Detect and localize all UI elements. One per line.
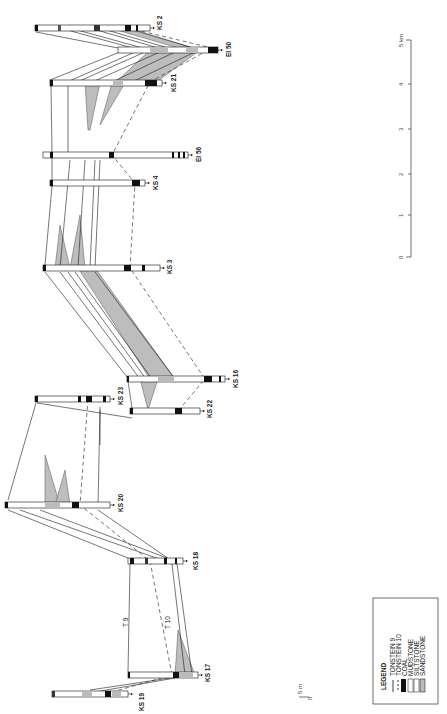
borehole-ks20 bbox=[5, 502, 114, 508]
borehole-label-ei50: EI 50 bbox=[225, 41, 232, 57]
t10-label: T 10 bbox=[164, 616, 171, 629]
correlation-lines bbox=[8, 28, 200, 692]
borehole-ks21 bbox=[50, 80, 166, 86]
borehole-label-ks21: KS 21 bbox=[170, 74, 177, 92]
borehole-label-ks22: KS 22 bbox=[206, 400, 213, 418]
borehole-label-ks2: KS 2 bbox=[156, 15, 163, 30]
borehole-ks16 bbox=[127, 376, 229, 382]
borehole-ei50 bbox=[118, 47, 222, 53]
t9-label: T 9 bbox=[122, 617, 129, 627]
borehole-ks18 bbox=[128, 558, 187, 564]
borehole-label-ks17: KS 17 bbox=[204, 664, 211, 682]
borehole-ks17 bbox=[128, 672, 202, 678]
legend-mudstone-symbol bbox=[408, 679, 413, 692]
metre-scale-bottom: 0 bbox=[307, 696, 313, 700]
borehole-ks23 bbox=[35, 396, 114, 402]
metre-scale-top: 5 m bbox=[297, 684, 303, 694]
scale-tick-2: 2 bbox=[398, 172, 404, 176]
scale-unit-label: 5 km bbox=[398, 34, 404, 47]
borehole-label-ks16: KS 16 bbox=[232, 370, 239, 388]
borehole-ks3 bbox=[43, 265, 164, 271]
borehole-ei56 bbox=[43, 152, 192, 158]
borehole-label-ks23: KS 23 bbox=[117, 387, 124, 405]
borehole-label-ks20: KS 20 bbox=[117, 494, 124, 512]
legend-title: LEGEND bbox=[380, 663, 387, 690]
borehole-label-ks3: KS 3 bbox=[166, 259, 173, 274]
borehole-ks4 bbox=[50, 180, 149, 186]
borehole-label-ks19: KS 19 bbox=[138, 693, 145, 711]
legend-sandstone-symbol bbox=[420, 679, 425, 692]
borehole-ks22 bbox=[130, 408, 204, 414]
legend-coal-symbol bbox=[401, 679, 406, 692]
borehole-label-ks18: KS 18 bbox=[192, 552, 199, 570]
borehole-label-ei56: EI 56 bbox=[195, 146, 202, 162]
km-scale-bar[interactable] bbox=[406, 40, 411, 257]
borehole-ks19 bbox=[52, 691, 132, 697]
correlation-diagram: KS 2 EI 50 KS 21 EI 56 KS 4 bbox=[0, 0, 447, 714]
borehole-label-ks4: KS 4 bbox=[152, 175, 159, 190]
legend-siltstone-symbol bbox=[414, 679, 419, 692]
scale-tick-0: 0 bbox=[398, 255, 404, 259]
legend-item-sandstone: SANDSTONE bbox=[419, 635, 426, 676]
scale-tick-1: 1 bbox=[398, 213, 404, 217]
scale-tick-3: 3 bbox=[398, 127, 404, 131]
borehole-ks2 bbox=[35, 25, 154, 31]
scale-tick-4: 4 bbox=[398, 82, 404, 86]
